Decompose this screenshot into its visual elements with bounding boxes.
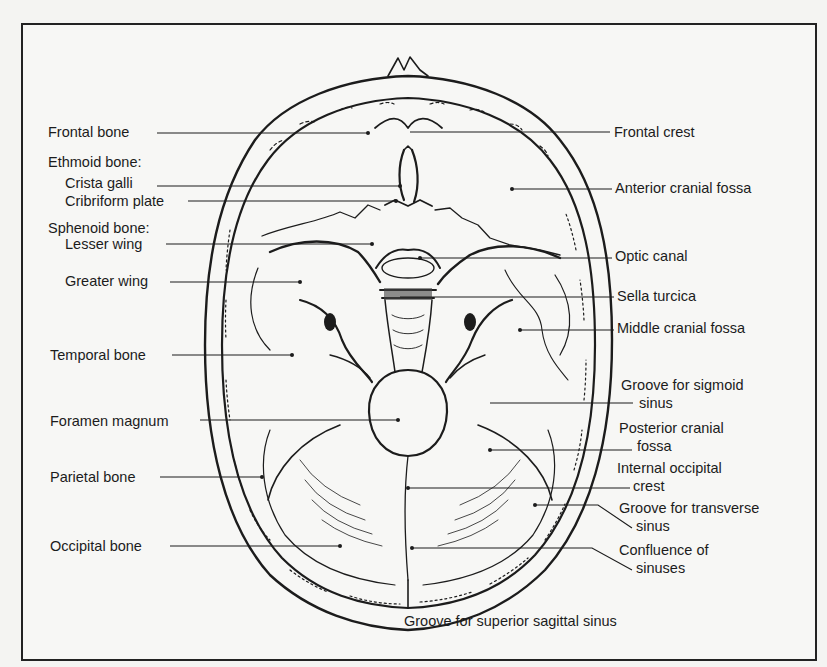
label-optic-canal: Optic canal <box>615 248 688 265</box>
label-foramen-magnum: Foramen magnum <box>50 413 168 430</box>
label-greater-wing: Greater wing <box>65 273 148 290</box>
label-posterior-cranial-fossa: Posterior cranial <box>619 420 724 437</box>
label-confluence-of-sinuses-cont: sinuses <box>636 560 685 577</box>
label-frontal-bone: Frontal bone <box>48 124 129 141</box>
label-posterior-cranial-fossa-cont: fossa <box>637 438 672 455</box>
label-internal-occipital-crest: Internal occipital <box>617 460 722 477</box>
label-lesser-wing: Lesser wing <box>65 236 142 253</box>
label-parietal-bone: Parietal bone <box>50 469 135 486</box>
skull-outer-outline <box>205 76 612 630</box>
label-groove-sigmoid-sinus: Groove for sigmoid <box>621 377 744 394</box>
label-crista-galli: Crista galli <box>65 175 133 192</box>
label-confluence-of-sinuses: Confluence of <box>619 542 708 559</box>
label-groove-sigmoid-sinus-cont: sinus <box>639 395 673 412</box>
label-sphenoid-bone: Sphenoid bone: <box>48 220 150 237</box>
label-occipital-bone: Occipital bone <box>50 538 142 555</box>
label-groove-transverse-sinus-cont: sinus <box>636 518 670 535</box>
label-ethmoid-bone: Ethmoid bone: <box>48 154 142 171</box>
label-internal-occipital-crest-cont: crest <box>633 478 664 495</box>
label-sella-turcica: Sella turcica <box>617 288 696 305</box>
foramen-magnum-outline <box>369 370 447 456</box>
label-anterior-cranial-fossa: Anterior cranial fossa <box>615 180 751 197</box>
label-temporal-bone: Temporal bone <box>50 347 146 364</box>
label-middle-cranial-fossa: Middle cranial fossa <box>617 320 745 337</box>
label-groove-transverse-sinus: Groove for transverse <box>619 500 759 517</box>
label-groove-superior-sagittal-sinus: Groove for superior sagittal sinus <box>404 613 617 630</box>
label-cribriform-plate: Cribriform plate <box>65 193 164 210</box>
label-frontal-crest: Frontal crest <box>614 124 695 141</box>
